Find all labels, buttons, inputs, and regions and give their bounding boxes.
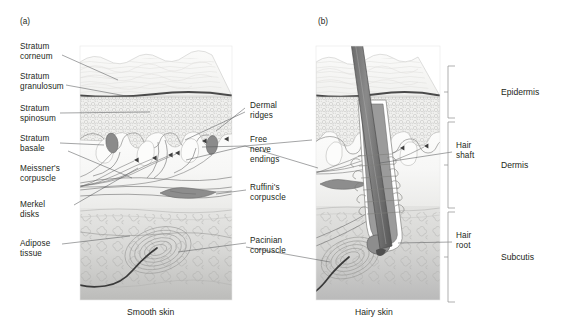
panel-a-smooth-skin [80, 51, 232, 300]
panel-tag-b: (b) [318, 17, 328, 26]
label-adipose-tissue: Adipose tissue [20, 239, 50, 259]
label-hair-shaft: Hair shaft [456, 141, 474, 161]
label-free-nerve-endings: Free nerve endings [250, 135, 279, 166]
panel-b-hairy-skin [313, 0, 448, 300]
label-merkel-disks: Merkel disks [20, 200, 45, 220]
bracket-label-dermis: Dermis [501, 160, 528, 170]
label-ruffinis-corpuscle: Ruffini's corpuscle [250, 183, 286, 203]
label-stratum-granulosum: Stratum granulosum [20, 72, 64, 92]
label-stratum-spinosum: Stratum spinosum [20, 104, 56, 124]
label-stratum-basale: Stratum basale [20, 134, 49, 154]
caption-hairy-skin: Hairy skin [355, 307, 393, 317]
label-stratum-corneum: Stratum corneum [20, 42, 53, 62]
layer-brackets [444, 66, 455, 302]
label-hair-root: Hair root [456, 231, 471, 251]
label-pacinian-corpuscle: Pacinian corpuscle [250, 236, 286, 256]
skin-anatomy-figure: (a) (b) Stratum corneum Stratum granulos… [0, 0, 562, 334]
label-dermal-ridges: Dermal ridges [250, 101, 277, 121]
diagram-artwork [0, 0, 562, 334]
panel-tag-a: (a) [20, 17, 30, 26]
caption-smooth-skin: Smooth skin [127, 307, 174, 317]
label-meissners-corpuscle: Meissner's corpuscle [20, 164, 60, 184]
bracket-label-epidermis: Epidermis [501, 87, 539, 97]
bracket-label-subcutis: Subcutis [501, 252, 534, 262]
